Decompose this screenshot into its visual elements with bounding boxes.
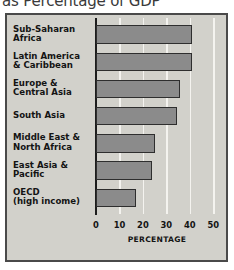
- category-label: Latin America& Caribbean: [13, 52, 97, 71]
- bar: [96, 189, 136, 208]
- x-tick-label-40: 40: [181, 220, 199, 230]
- gridline-50: [213, 18, 214, 214]
- plot-area: PERCENTAGE Sub-SaharanAfricaLatin Americ…: [7, 15, 226, 260]
- category-label: Europe &Central Asia: [13, 79, 97, 98]
- chart-frame: PERCENTAGE Sub-SaharanAfricaLatin Americ…: [5, 13, 228, 262]
- category-label-line: Africa: [13, 34, 97, 44]
- category-label: East Asia &Pacific: [13, 161, 97, 180]
- x-axis-title: PERCENTAGE: [96, 235, 218, 244]
- category-label: South Asia: [13, 111, 97, 121]
- category-label-line: South Asia: [13, 111, 97, 121]
- x-tick-label-0: 0: [87, 220, 105, 230]
- category-label-line: & Caribbean: [13, 61, 97, 71]
- x-tick-label-50: 50: [204, 220, 222, 230]
- chart-title-clip: as Percentage of GDP: [0, 0, 234, 13]
- bar: [96, 134, 155, 153]
- bar: [96, 161, 152, 180]
- x-tick-label-30: 30: [157, 220, 175, 230]
- bar: [96, 53, 192, 72]
- bar: [96, 80, 180, 99]
- chart-title: as Percentage of GDP: [2, 0, 160, 10]
- bar: [96, 25, 192, 44]
- x-tick-label-20: 20: [134, 220, 152, 230]
- category-label: Sub-SaharanAfrica: [13, 25, 97, 44]
- x-tick-label-10: 10: [110, 220, 128, 230]
- category-label: Middle East &North Africa: [13, 133, 97, 152]
- category-label-line: Central Asia: [13, 88, 97, 98]
- gridline-40: [190, 18, 191, 214]
- category-label: OECD(high income): [13, 188, 97, 207]
- bar: [96, 107, 177, 126]
- category-label-line: (high income): [13, 197, 97, 207]
- category-label-line: North Africa: [13, 143, 97, 153]
- category-label-line: Pacific: [13, 170, 97, 180]
